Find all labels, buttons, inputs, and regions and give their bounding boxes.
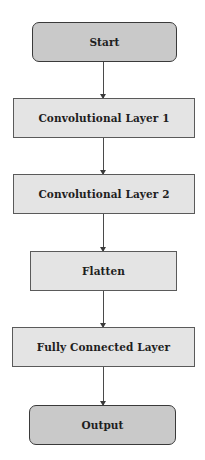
flatten-label: Flatten xyxy=(82,265,125,277)
conv-layer-2-label: Convolutional Layer 2 xyxy=(38,188,169,200)
start-node-label: Start xyxy=(89,36,119,48)
flatten-node: Flatten xyxy=(30,251,177,291)
conv-layer-2-node: Convolutional Layer 2 xyxy=(13,174,195,214)
conv-layer-1-node: Convolutional Layer 1 xyxy=(13,98,195,138)
fully-connected-layer-node: Fully Connected Layer xyxy=(12,327,195,367)
arrow-fc-to-output xyxy=(103,367,105,405)
output-node: Output xyxy=(29,405,176,445)
arrow-flatten-to-fc xyxy=(103,291,105,327)
start-node: Start xyxy=(32,22,177,62)
arrow-conv2-to-flatten xyxy=(103,214,105,251)
arrow-conv1-to-conv2 xyxy=(103,138,105,174)
fully-connected-layer-label: Fully Connected Layer xyxy=(37,341,170,353)
arrow-start-to-conv1 xyxy=(103,62,105,98)
output-node-label: Output xyxy=(81,419,123,431)
conv-layer-1-label: Convolutional Layer 1 xyxy=(38,112,169,124)
